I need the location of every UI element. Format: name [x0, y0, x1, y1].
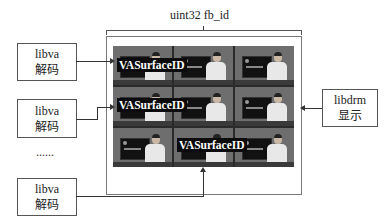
arrow-right-icon	[110, 58, 115, 64]
decoder-box: libva 解码	[17, 99, 77, 138]
decoder-action-label: 解码	[35, 197, 59, 213]
bracket-notch	[203, 26, 204, 30]
decoder-action-label: 解码	[35, 62, 59, 78]
more-decoders-ellipsis: ......	[36, 145, 54, 160]
decoder-lib-label: libva	[35, 181, 59, 197]
framebuffer-id-label: uint32 fb_id	[170, 8, 229, 23]
video-cell	[235, 87, 294, 126]
video-cell	[235, 46, 294, 85]
arrow-up-icon	[200, 167, 206, 172]
decoder-connector	[203, 172, 204, 197]
display-action-label: 显示	[338, 108, 362, 124]
decoder-connector	[76, 61, 110, 62]
surface-id-label: VASurfaceID	[117, 98, 187, 112]
decoder-action-label: 解码	[35, 119, 59, 135]
surface-id-label: VASurfaceID	[177, 138, 247, 152]
arrow-left-icon	[300, 105, 305, 111]
decoder-connector	[76, 119, 97, 120]
decoder-box: libva 解码	[17, 43, 77, 81]
framebuffer-bracket	[106, 30, 302, 35]
surface-id-label: VASurfaceID	[117, 58, 187, 72]
decoder-connector	[97, 107, 110, 108]
arrow-right-icon	[110, 104, 115, 110]
display-box: libdrm 显示	[322, 89, 378, 127]
decoder-connector	[97, 107, 98, 120]
decoder-lib-label: libva	[35, 46, 59, 62]
decoder-box: libva 解码	[17, 178, 77, 216]
display-lib-label: libdrm	[334, 92, 366, 108]
decoder-lib-label: libva	[35, 103, 59, 119]
decoder-connector	[76, 196, 204, 197]
video-cell	[113, 128, 172, 167]
display-connector	[305, 108, 322, 109]
